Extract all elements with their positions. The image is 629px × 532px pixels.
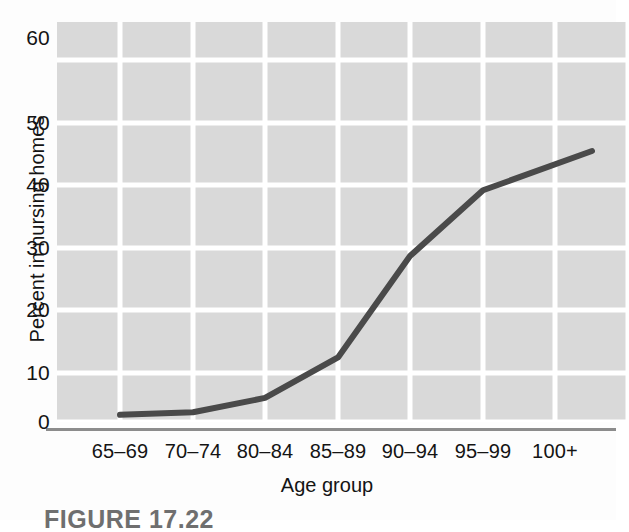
vertical-gridlines bbox=[120, 22, 628, 422]
y-axis-title: Percent in nursing homes bbox=[26, 64, 48, 394]
y-tick-label-0: 0 bbox=[0, 411, 50, 432]
x-axis-title: Age group bbox=[57, 474, 597, 496]
plot-area bbox=[57, 22, 629, 422]
figure-caption: FIGURE 17.22 bbox=[44, 506, 214, 532]
y-tick-label-60: 60 bbox=[0, 27, 50, 48]
x-tick-label-100-plus: 100+ bbox=[500, 440, 610, 462]
chart-svg bbox=[57, 22, 629, 422]
horizontal-gridlines bbox=[57, 60, 629, 422]
x-axis-baseline bbox=[46, 428, 616, 431]
